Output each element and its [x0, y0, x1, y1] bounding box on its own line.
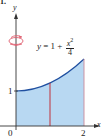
y-axis-label: y [13, 4, 17, 12]
function-equation: y = 1 + x2 4 [37, 37, 74, 57]
fraction-numerator-exp: 2 [70, 37, 73, 43]
x-axis-label: x [97, 121, 101, 129]
equation-equals: = [43, 41, 48, 51]
equation-fraction: x2 4 [66, 37, 75, 57]
y-tick-label-1: 1 [8, 87, 13, 96]
equation-constant: 1 [51, 41, 56, 51]
origin-label: 0 [8, 129, 13, 138]
y-axis-arrow-icon [14, 13, 18, 19]
x-tick-label-2: 2 [81, 129, 86, 138]
equation-plus: + [57, 41, 62, 51]
volume-of-revolution-figure [0, 0, 101, 138]
problem-number: 1. [0, 0, 6, 6]
equation-lhs: y [37, 41, 41, 51]
fraction-denominator: 4 [66, 49, 75, 57]
